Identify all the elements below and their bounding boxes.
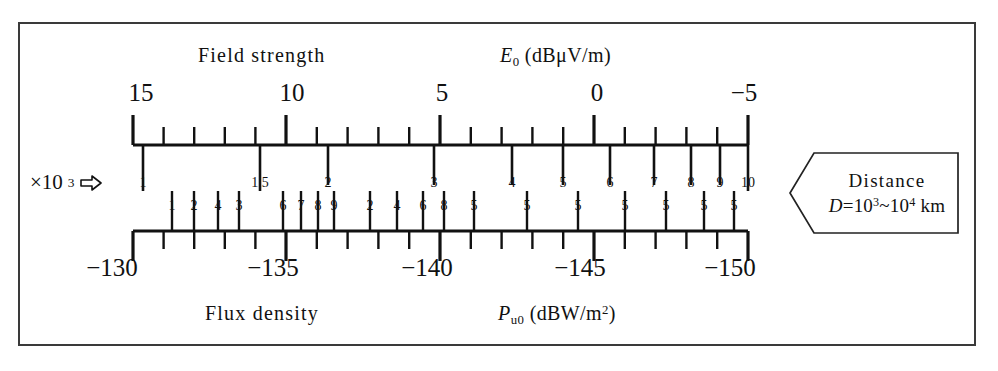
lower-scale-value-label: 1 xyxy=(169,199,176,213)
lower-scale-value-label: 5 xyxy=(524,199,531,213)
e0-unit: (dBμV/m) xyxy=(525,44,611,66)
lower-scale-value-label: 3 xyxy=(236,199,243,213)
upper-scale-value-label: 7 xyxy=(651,176,658,190)
lower-scale-value-label: 2 xyxy=(191,199,198,213)
distance-equals: =10 xyxy=(843,195,873,216)
e0-subscript: 0 xyxy=(513,55,520,69)
bottom-axis-tick-label: −135 xyxy=(247,254,299,282)
lower-scale-value-label: 2 xyxy=(367,199,374,213)
pu0-unit: (dBW/m xyxy=(530,302,602,324)
lower-scale-value-label: 4 xyxy=(215,199,222,213)
distance-callout: Distance D=103~104 km xyxy=(788,152,960,234)
top-axis-tick-label: 5 xyxy=(436,79,449,107)
multiplier-text: ×10 xyxy=(30,170,63,195)
top-axis-tick-label: 15 xyxy=(129,79,154,107)
upper-scale-value-label: 5 xyxy=(560,176,567,190)
lower-scale-value-label: 4 xyxy=(394,199,401,213)
field-strength-unit-heading: E0 (dBμV/m) xyxy=(500,44,611,70)
arrow-right-icon xyxy=(80,175,102,191)
lower-scale-value-label: 5 xyxy=(701,199,708,213)
lower-scale-value-label: 5 xyxy=(575,199,582,213)
upper-scale-value-label: 9 xyxy=(717,176,724,190)
pu0-subscript: u0 xyxy=(511,313,525,327)
upper-scale-value-label: 10 xyxy=(741,176,755,190)
distance-symbol: D xyxy=(829,195,843,216)
flux-density-heading: Flux density xyxy=(205,302,319,325)
bottom-axis-tick-label: −145 xyxy=(554,254,606,282)
upper-scale-value-label: 2 xyxy=(325,176,332,190)
top-axis-tick-label: 10 xyxy=(280,79,305,107)
lower-scale-value-label: 5 xyxy=(471,199,478,213)
distance-tilde: ~10 xyxy=(879,195,909,216)
distance-title: Distance xyxy=(849,170,926,192)
multiplier-note: ×103 xyxy=(30,170,102,195)
e0-symbol: E xyxy=(500,44,513,66)
distance-equation: D=103~104 km xyxy=(829,195,945,217)
bottom-axis-tick-label: −140 xyxy=(401,254,453,282)
pu0-unit-exponent: 2 xyxy=(602,303,609,317)
upper-scale-value-label: 3 xyxy=(431,176,438,190)
lower-scale-value-label: 9 xyxy=(331,199,338,213)
lower-scale-value-label: 5 xyxy=(663,199,670,213)
field-strength-heading: Field strength xyxy=(198,44,325,67)
top-axis-tick-label: 0 xyxy=(591,79,604,107)
top-axis-tick-label: −5 xyxy=(731,79,758,107)
multiplier-exponent: 3 xyxy=(68,175,75,191)
pu0-symbol: P xyxy=(498,302,511,324)
lower-scale-value-label: 8 xyxy=(315,199,322,213)
lower-scale-value-label: 7 xyxy=(298,199,305,213)
lower-scale-value-label: 6 xyxy=(420,199,427,213)
lower-scale-value-label: 6 xyxy=(280,199,287,213)
upper-scale-value-label: 8 xyxy=(688,176,695,190)
bottom-axis-tick-label: −130 xyxy=(86,254,138,282)
upper-scale-value-label: 6 xyxy=(607,176,614,190)
upper-scale-value-label: 1.5 xyxy=(251,176,269,190)
flux-density-unit-heading: Pu0 (dBW/m2) xyxy=(498,302,616,328)
upper-scale-value-label: 4 xyxy=(509,176,516,190)
distance-unit: km xyxy=(916,195,946,216)
lower-scale-value-label: 5 xyxy=(622,199,629,213)
lower-scale-value-label: 8 xyxy=(441,199,448,213)
bottom-axis-tick-label: −150 xyxy=(704,254,756,282)
lower-scale-value-label: 5 xyxy=(731,199,738,213)
pu0-unit-close: ) xyxy=(609,302,616,324)
upper-scale-value-label: 1 xyxy=(140,176,147,190)
